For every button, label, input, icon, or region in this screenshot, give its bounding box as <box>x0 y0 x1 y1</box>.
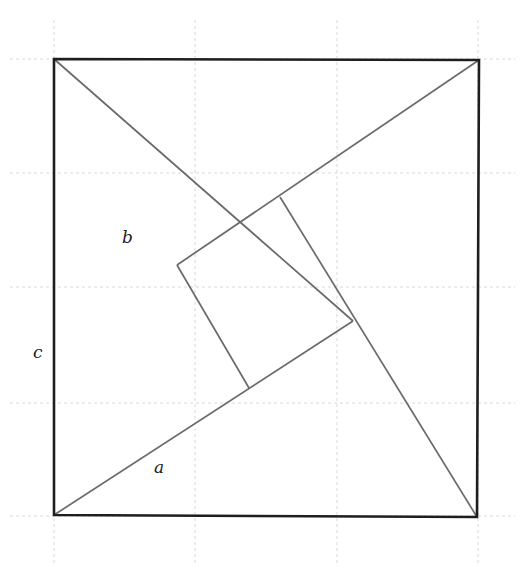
diagram-canvas: b c a <box>0 0 520 581</box>
segment-right-bottom <box>280 197 477 517</box>
segment-b-left <box>54 59 353 321</box>
inner-construction <box>54 59 479 517</box>
segment-left-inner <box>177 265 249 388</box>
label-b: b <box>122 227 133 247</box>
segment-a-bottom <box>54 321 353 515</box>
segment-top-right <box>177 60 479 265</box>
background-grid <box>10 20 515 565</box>
label-c: c <box>33 342 43 362</box>
label-a: a <box>154 457 164 477</box>
outer-square <box>54 59 479 517</box>
